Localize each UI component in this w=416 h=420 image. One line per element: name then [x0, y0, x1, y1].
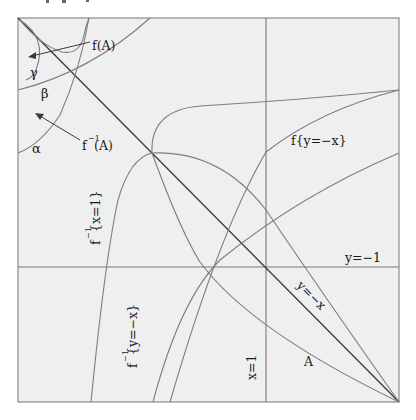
diagram-svg: f(A) γ β α f −1 (A) f{y=−x} f −1 {x=1} f… [0, 0, 416, 420]
label-f-y-minus-x: f{y=−x} [291, 133, 347, 148]
cropped-caption-fragment [46, 0, 89, 3]
label-region-A: A [303, 354, 314, 369]
label-x-equals-1: x=1 [244, 355, 259, 380]
svg-text:(A): (A) [94, 138, 113, 153]
label-f-of-A: f(A) [92, 38, 115, 53]
svg-text:{x=1}: {x=1} [88, 191, 103, 232]
label-beta: β [41, 86, 49, 101]
label-x-equals-1-group: x=1 [244, 355, 259, 380]
label-gamma: γ [30, 65, 38, 80]
label-y-equals-minus-1: y=−1 [344, 250, 381, 265]
label-alpha: α [32, 141, 41, 156]
svg-text:{y=−x}: {y=−x} [125, 304, 140, 355]
diagram-figure: f(A) γ β α f −1 (A) f{y=−x} f −1 {x=1} f… [0, 0, 416, 420]
